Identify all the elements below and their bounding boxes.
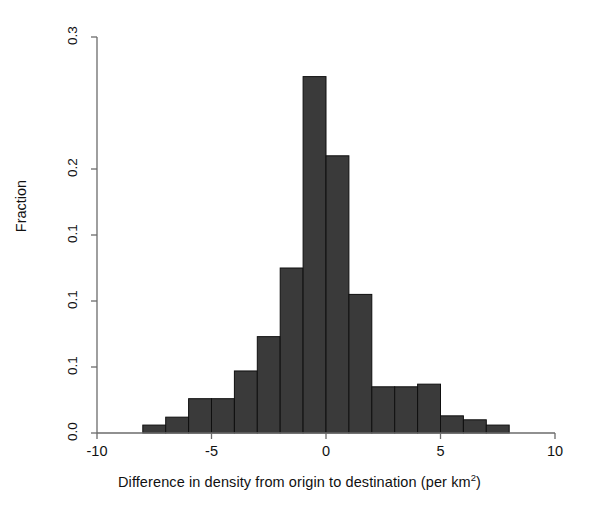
histogram-bar xyxy=(257,337,280,433)
x-tick-label: 5 xyxy=(419,443,463,459)
y-tick-label: 0.1 xyxy=(65,283,80,317)
histogram-bar xyxy=(463,420,486,433)
y-axis-title: Fraction xyxy=(13,161,29,251)
y-tick-label: 0.1 xyxy=(65,217,80,251)
histogram-bar xyxy=(166,417,189,433)
histogram-bar xyxy=(372,387,395,433)
x-axis-title-base: Difference in density from origin to des… xyxy=(118,474,471,490)
histogram-bar xyxy=(234,371,257,433)
histogram-bar xyxy=(280,268,303,433)
histogram-bar xyxy=(441,416,464,433)
x-tick-label: -10 xyxy=(75,443,119,459)
histogram-bar xyxy=(212,399,235,433)
histogram-bar xyxy=(349,294,372,433)
x-tick-label: 0 xyxy=(304,443,348,459)
bars-group xyxy=(143,77,509,433)
histogram-bar xyxy=(189,399,212,433)
histogram-figure: Fraction Difference in density from orig… xyxy=(0,0,599,518)
x-axis-title: Difference in density from origin to des… xyxy=(0,472,599,490)
histogram-bar xyxy=(486,425,509,433)
y-tick-label: 0.2 xyxy=(65,151,80,185)
histogram-bar xyxy=(303,77,326,433)
histogram-bar xyxy=(395,387,418,433)
histogram-bar xyxy=(326,156,349,433)
y-tick-label: 0.1 xyxy=(65,349,80,383)
x-axis-title-tail: ) xyxy=(476,474,481,490)
histogram-bar xyxy=(143,425,166,433)
x-tick-label: -5 xyxy=(190,443,234,459)
histogram-bar xyxy=(418,384,441,433)
y-tick-label: 0.3 xyxy=(65,19,80,53)
plot-area xyxy=(0,0,599,518)
x-tick-label: 10 xyxy=(533,443,577,459)
